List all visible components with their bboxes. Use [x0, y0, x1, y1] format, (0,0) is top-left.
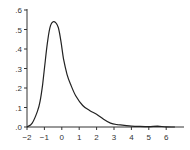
density-curve [27, 22, 175, 127]
x-tick-label: 3 [112, 133, 117, 142]
y-tick-label: .3 [15, 65, 22, 74]
y-tick-label: .6 [15, 6, 22, 15]
x-tick-labels: −2 −1 0 1 2 3 4 5 6 [22, 133, 169, 142]
x-tick-label: 6 [164, 133, 169, 142]
y-tick-label: .1 [15, 104, 22, 113]
y-tick-label: .2 [15, 84, 22, 93]
x-tick-label: 1 [77, 133, 82, 142]
x-tick-label: −2 [22, 133, 32, 142]
y-tick-label: .5 [15, 26, 22, 35]
y-tick-label: .0 [15, 123, 22, 132]
y-tick-labels: .0 .1 .2 .3 .4 .5 .6 [15, 6, 22, 132]
x-tick-label: 5 [147, 133, 152, 142]
x-tick-label: 4 [129, 133, 134, 142]
x-tick-label: 2 [94, 133, 99, 142]
x-tick-label: −1 [40, 133, 50, 142]
density-chart: .0 .1 .2 .3 .4 .5 .6 −2 −1 0 1 2 3 4 5 6 [0, 0, 190, 150]
y-tick-label: .4 [15, 45, 22, 54]
x-tick-label: 0 [60, 133, 65, 142]
